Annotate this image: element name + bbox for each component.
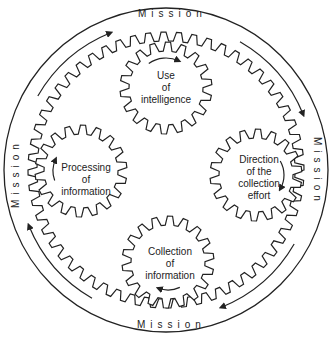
outer-arrow-top-right (240, 42, 303, 115)
mission-label-left: Mission (10, 139, 21, 208)
outer-arrow-bottom-right (221, 244, 294, 307)
gear-top-line-3: intelligence (126, 94, 206, 106)
outer-arrow-top-left (38, 33, 111, 96)
outer-arrow-bottom-left (29, 225, 92, 298)
gear-left-line-1: Processing (46, 162, 126, 174)
gear-right-line-4: effort (219, 190, 299, 202)
gear-right-line-3: collection (219, 178, 299, 190)
gear-bottom-line-1: Collection (130, 246, 210, 258)
gear-top-line-2: of (126, 82, 206, 94)
gear-right-line-1: Direction (219, 154, 299, 166)
gear-left-line-3: information (46, 186, 126, 198)
gear-label-processing: Processing of information (46, 162, 126, 198)
mission-label-right: Mission (312, 137, 323, 206)
gear-bottom-line-3: information (130, 270, 210, 282)
gear-left-line-2: of (46, 174, 126, 186)
mission-label-top: Mission (138, 8, 207, 19)
gear-right-line-2: of the (219, 166, 299, 178)
gear-label-direction: Direction of the collection effort (219, 154, 299, 202)
gear-label-use-of-intelligence: Use of intelligence (126, 70, 206, 106)
gear-top-line-1: Use (126, 70, 206, 82)
gear-label-collection: Collection of information (130, 246, 210, 282)
gear-bottom-line-2: of (130, 258, 210, 270)
mission-label-bottom: Mission (137, 319, 206, 330)
